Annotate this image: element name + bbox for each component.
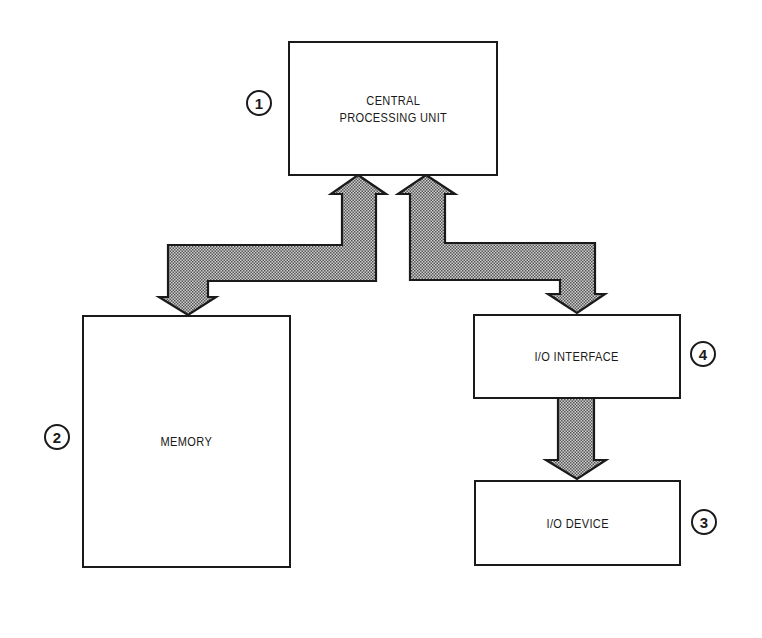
io-device-block: I/O DEVICE	[474, 480, 681, 566]
memory-block: MEMORY	[82, 315, 291, 568]
cpu-io-interface-bus-arrow	[398, 175, 605, 313]
io-interface-number-badge: 4	[690, 341, 716, 367]
cpu-label: CENTRAL PROCESSING UNIT	[339, 92, 447, 126]
io-interface-to-device-arrow	[546, 398, 606, 479]
io-device-number-badge: 3	[691, 509, 717, 535]
cpu-memory-bus-arrow	[159, 175, 386, 315]
memory-label: MEMORY	[161, 433, 213, 450]
cpu-block: CENTRAL PROCESSING UNIT	[288, 41, 498, 176]
computer-block-diagram: CENTRAL PROCESSING UNIT 1 MEMORY 2 I/O I…	[0, 0, 762, 638]
io-interface-block: I/O INTERFACE	[473, 314, 681, 399]
memory-number-badge: 2	[44, 424, 70, 450]
cpu-number-badge: 1	[246, 90, 272, 116]
io-device-label: I/O DEVICE	[546, 515, 608, 532]
io-interface-label: I/O INTERFACE	[535, 348, 619, 365]
